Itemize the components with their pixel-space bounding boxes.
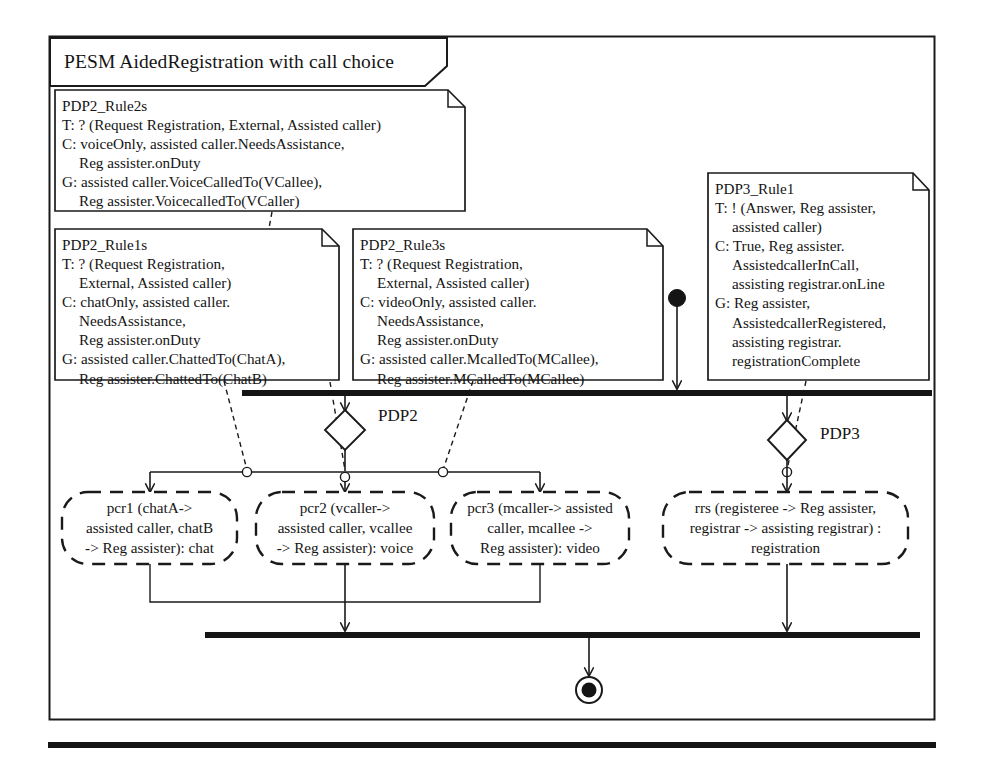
- action-line: -> Reg assister): voice: [277, 538, 413, 558]
- note-line: G: assisted caller.McalledTo(MCallee),: [360, 349, 655, 368]
- action-pcr2[interactable]: pcr2 (vcaller-> assisted caller, vcallee…: [256, 492, 434, 564]
- action-line: assisted caller, vcallee: [278, 518, 413, 538]
- frame-title: PESM AidedRegistration with call choice: [50, 40, 445, 84]
- action-line: registration: [751, 538, 820, 558]
- action-line: pcr3 (mcaller-> assisted: [467, 498, 613, 518]
- action-line: pcr2 (vcaller->: [300, 498, 390, 518]
- note-line: assisting registrar.: [715, 332, 921, 351]
- note-pdp3-rule1: PDP3_Rule1 T: ! (Answer, Reg assister, a…: [708, 175, 929, 378]
- note-line: PDP2_Rule3s: [360, 235, 655, 254]
- note-line: AssistedcallerRegistered,: [715, 313, 921, 332]
- action-line: Reg assister): video: [480, 538, 600, 558]
- fork-bar: [242, 390, 932, 396]
- note-line: G: assisted caller.VoiceCalledTo(VCallee…: [62, 172, 457, 191]
- note-line: Reg assister.VoicecalledTo(VCaller): [62, 191, 457, 210]
- action-pcr3[interactable]: pcr3 (mcaller-> assisted caller, mcallee…: [451, 492, 629, 564]
- note-line: PDP2_Rule1s: [62, 235, 331, 254]
- action-line: rrs (registeree -> Reg assister,: [695, 498, 876, 518]
- join-bar: [205, 632, 920, 638]
- note-line: C: True, Reg assister.: [715, 236, 921, 255]
- branch-anchor-right: [438, 467, 447, 476]
- note-line: PDP3_Rule1: [715, 179, 921, 198]
- note-line: C: videoOnly, assisted caller.: [360, 292, 655, 311]
- note-line: Reg assister.onDuty: [360, 330, 655, 349]
- action-line: pcr1 (chatA->: [107, 498, 193, 518]
- note-line: C: voiceOnly, assisted caller.NeedsAssis…: [62, 134, 457, 153]
- note-line: assisted caller): [715, 217, 921, 236]
- note-line: T: ? (Request Registration, External, As…: [62, 115, 457, 134]
- note-pdp2-rule1s: PDP2_Rule1s T: ? (Request Registration, …: [55, 231, 339, 378]
- note-line: PDP2_Rule2s: [62, 96, 457, 115]
- initial-node: [669, 290, 686, 307]
- note-line: T: ? (Request Registration,: [62, 254, 331, 273]
- action-rrs[interactable]: rrs (registeree -> Reg assister, registr…: [663, 492, 908, 564]
- decision-label-pdp3: PDP3: [820, 424, 860, 444]
- decision-label-pdp2: PDP2: [378, 406, 418, 426]
- note-pdp2-rule3s: PDP2_Rule3s T: ? (Request Registration, …: [353, 231, 663, 378]
- note-line: NeedsAssistance,: [62, 311, 331, 330]
- note-line: NeedsAssistance,: [360, 311, 655, 330]
- note-line: registrationComplete: [715, 351, 921, 370]
- note-line: Reg assister.ChattedTo(ChatB): [62, 369, 331, 388]
- action-line: -> Reg assister): chat: [85, 538, 214, 558]
- note-line: G: Reg assister,: [715, 293, 921, 312]
- note-line: Reg assister.MCalledTo(MCallee): [360, 369, 655, 388]
- note-line: Reg assister.onDuty: [62, 330, 331, 349]
- note-line: External, Assisted caller): [360, 273, 655, 292]
- note-pdp2-rule2s: PDP2_Rule2s T: ? (Request Registration, …: [55, 92, 465, 209]
- page-separator-rule: [48, 742, 936, 748]
- activity-diagram: PESM AidedRegistration with call choice …: [0, 0, 984, 757]
- action-line: registrar -> assisting registrar) :: [690, 518, 882, 538]
- activity-final-node: [576, 677, 602, 703]
- action-line: assisted caller, chatB: [86, 518, 213, 538]
- note-line: AssistedcallerInCall,: [715, 255, 921, 274]
- action-pcr1[interactable]: pcr1 (chatA-> assisted caller, chatB -> …: [62, 492, 237, 564]
- action-line: caller, mcallee ->: [487, 518, 592, 538]
- note-line: Reg assister.onDuty: [62, 153, 457, 172]
- branch-anchor-center: [340, 472, 349, 481]
- note-line: T: ? (Request Registration,: [360, 254, 655, 273]
- note-line: T: ! (Answer, Reg assister,: [715, 198, 921, 217]
- note-line: assisting registrar.onLine: [715, 274, 921, 293]
- branch-anchor-left: [242, 467, 251, 476]
- note-line: G: assisted caller.ChattedTo(ChatA),: [62, 349, 331, 368]
- note-line: External, Assisted caller): [62, 273, 331, 292]
- note-line: C: chatOnly, assisted caller.: [62, 292, 331, 311]
